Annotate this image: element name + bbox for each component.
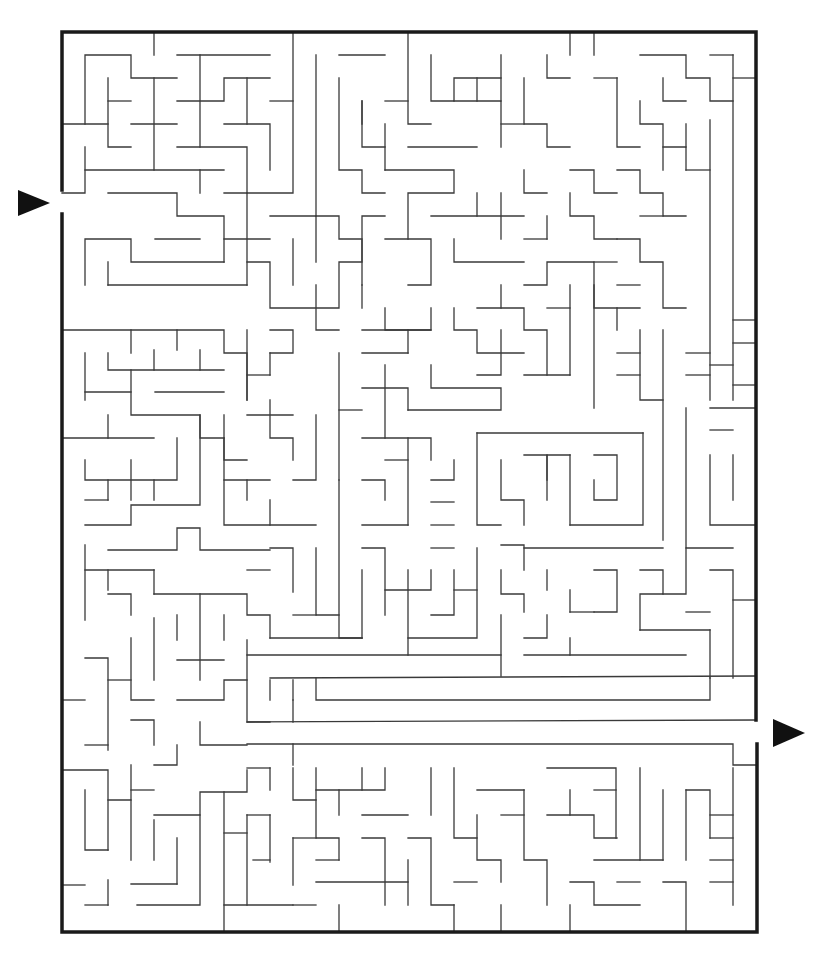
maze-wall	[247, 744, 756, 765]
maze-wall	[663, 147, 686, 170]
maze-wall	[316, 678, 710, 700]
maze-wall	[663, 548, 686, 594]
maze-wall	[477, 433, 501, 525]
maze-wall	[547, 455, 570, 500]
maze-wall	[547, 768, 616, 838]
maze-wall	[385, 170, 454, 239]
maze-wall	[108, 353, 224, 370]
maze-wall	[431, 55, 501, 101]
maze-wall	[362, 101, 385, 147]
maze-wall	[247, 720, 756, 722]
maze-wall	[501, 570, 524, 612]
maze-wall	[524, 170, 547, 193]
maze-wall	[570, 882, 640, 905]
maze-wall	[594, 455, 617, 500]
maze-wall	[270, 548, 293, 592]
maze-wall	[617, 78, 640, 147]
maze-wall	[154, 594, 270, 638]
maze-wall	[640, 101, 663, 170]
maze-wall	[501, 545, 524, 570]
maze-wall	[385, 308, 431, 330]
maze-outer-wall	[62, 214, 757, 932]
maze-wall	[524, 78, 570, 147]
maze-wall	[362, 838, 385, 905]
maze-wall	[454, 239, 524, 262]
maze-wall	[501, 460, 524, 525]
maze-wall	[640, 330, 663, 400]
maze-wall	[454, 308, 524, 353]
maze-wall	[408, 365, 501, 410]
maze-wall	[247, 216, 362, 308]
start-arrow-icon	[18, 190, 50, 216]
maze-wall	[477, 308, 547, 375]
maze-wall	[477, 815, 501, 882]
maze-wall	[177, 680, 247, 700]
maze-wall	[200, 722, 247, 745]
maze-wall	[454, 101, 501, 147]
maze-wall	[247, 640, 270, 722]
finish-arrow-icon	[773, 719, 805, 747]
maze-wall	[524, 790, 547, 905]
maze-wall	[640, 55, 733, 101]
maze-wall	[131, 720, 154, 745]
maze-wall	[316, 548, 339, 615]
maze-wall	[293, 768, 316, 800]
maze-wall	[710, 570, 733, 678]
maze-wall	[570, 433, 643, 525]
maze-wall	[686, 790, 710, 838]
maze-wall	[316, 768, 339, 860]
maze-wall	[594, 570, 617, 612]
maze-wall	[137, 815, 200, 905]
maze-walls	[62, 32, 756, 932]
maze-wall	[270, 330, 293, 353]
maze-wall	[663, 78, 686, 101]
maze-wall	[431, 570, 454, 615]
maze-wall	[131, 370, 224, 438]
maze-wall	[154, 745, 177, 765]
maze-wall	[177, 78, 270, 101]
maze-wall	[85, 239, 224, 285]
maze-wall	[131, 638, 154, 700]
maze-wall	[570, 193, 617, 239]
maze-wall	[385, 239, 431, 285]
maze-wall	[547, 815, 617, 838]
maze-wall	[524, 455, 547, 480]
maze-wall	[454, 768, 477, 838]
maze-board	[0, 0, 825, 960]
maze-wall	[617, 170, 686, 216]
maze-wall	[339, 480, 362, 638]
maze-wall	[316, 768, 385, 790]
maze-border	[62, 32, 757, 932]
maze-wall	[547, 55, 570, 78]
maze-wall	[293, 415, 316, 480]
maze-wall	[85, 415, 200, 525]
maze-wall	[362, 438, 431, 460]
maze-wall	[362, 216, 385, 285]
maze-wall	[108, 594, 131, 615]
maze-wall	[108, 528, 270, 550]
maze-wall	[663, 882, 686, 932]
maze-wall	[270, 676, 756, 678]
maze-wall	[408, 838, 454, 905]
maze-wall	[85, 55, 177, 124]
maze-wall	[224, 415, 247, 460]
maze-wall	[408, 548, 477, 638]
maze-wall	[85, 790, 108, 850]
maze-wall	[108, 193, 224, 262]
maze-wall	[640, 570, 663, 630]
maze-wall	[108, 765, 131, 800]
maze-wall	[224, 32, 293, 193]
maze-wall	[524, 615, 547, 638]
maze-wall	[362, 480, 385, 500]
maze-wall	[154, 770, 247, 815]
maze-wall	[270, 400, 293, 460]
maze-wall	[617, 239, 686, 308]
maze-wall	[85, 658, 108, 750]
maze-wall	[570, 170, 617, 193]
maze-wall	[408, 32, 431, 124]
maze-outer-wall	[62, 32, 756, 720]
maze-wall	[108, 78, 131, 147]
maze-wall	[431, 460, 454, 480]
maze-wall	[62, 147, 85, 193]
maze-wall	[362, 548, 385, 615]
